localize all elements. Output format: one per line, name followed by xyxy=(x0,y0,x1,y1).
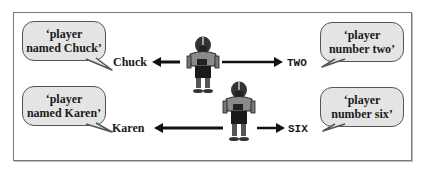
football-player-icon xyxy=(219,81,259,145)
football-player-icon xyxy=(183,36,223,96)
